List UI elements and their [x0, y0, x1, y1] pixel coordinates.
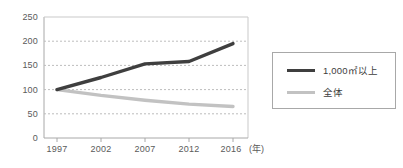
legend-label-large: 1,000㎡以上 — [323, 65, 378, 76]
x-tick-2002: 2002 — [81, 144, 121, 154]
legend-label-total: 全体 — [323, 87, 343, 98]
legend-swatch-line-light-icon — [287, 91, 315, 94]
y-tick-50: 50 — [4, 110, 38, 119]
x-tick-1997: 1997 — [37, 144, 77, 154]
x-axis-ticks — [57, 138, 233, 142]
chart-legend: 1,000㎡以上 全体 — [272, 52, 396, 109]
x-tick-2012: 2012 — [169, 144, 209, 154]
line-chart: 250 200 150 100 50 0 1997 2002 2007 2012… — [0, 0, 262, 168]
y-tick-250: 250 — [4, 13, 38, 22]
plot-frame — [44, 17, 248, 138]
y-tick-0: 0 — [4, 134, 38, 143]
y-tick-200: 200 — [4, 37, 38, 46]
x-tick-2007: 2007 — [125, 144, 165, 154]
legend-item-large: 1,000㎡以上 — [273, 62, 395, 78]
x-tick-2016: 2016 — [211, 144, 251, 154]
x-axis-labels: 1997 2002 2007 2012 2016 (年) — [0, 144, 262, 164]
gridlines — [44, 41, 248, 114]
x-axis-unit-label: (年) — [249, 144, 264, 154]
y-tick-100: 100 — [4, 86, 38, 95]
series-line-large — [57, 44, 233, 90]
chart-screenshot: 250 200 150 100 50 0 1997 2002 2007 2012… — [0, 0, 403, 168]
series-line-total — [57, 90, 233, 107]
legend-swatch-line-dark-icon — [287, 69, 315, 72]
y-tick-150: 150 — [4, 61, 38, 70]
legend-item-total: 全体 — [273, 84, 395, 100]
chart-canvas — [0, 0, 262, 168]
y-axis-labels: 250 200 150 100 50 0 — [0, 0, 38, 168]
